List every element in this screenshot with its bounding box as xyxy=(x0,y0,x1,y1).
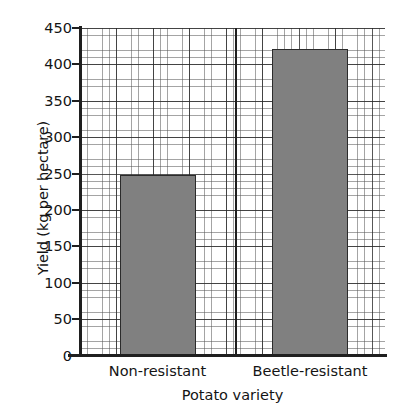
y-tick-label-150: 150 xyxy=(36,239,72,254)
bar-non-resistant[interactable] xyxy=(120,175,196,355)
category-divider xyxy=(235,28,237,355)
y-tick-label-200: 200 xyxy=(36,203,72,218)
y-tick-label-400: 400 xyxy=(36,57,72,72)
y-axis-line xyxy=(79,26,82,357)
bar-beetle-resistant[interactable] xyxy=(272,49,348,355)
x-axis-title: Potato variety xyxy=(80,387,385,403)
x-tick-label-beetle-resistant: Beetle-resistant xyxy=(235,363,385,379)
y-tick-label-0: 0 xyxy=(36,349,72,364)
y-tick-label-50: 50 xyxy=(36,312,72,327)
y-tick-label-350: 350 xyxy=(36,94,72,109)
x-tick-label-non-resistant: Non-resistant xyxy=(80,363,235,379)
y-tick-label-300: 300 xyxy=(36,130,72,145)
y-tick-label-450: 450 xyxy=(36,21,72,36)
bar-chart: Yield (kg per hectare) 450 400 350 300 2… xyxy=(0,0,403,420)
y-axis-tick-labels: 450 400 350 300 250 200 150 100 50 0 xyxy=(28,0,72,420)
x-axis-line xyxy=(68,354,387,357)
y-tick-label-250: 250 xyxy=(36,167,72,182)
y-tick-label-100: 100 xyxy=(36,276,72,291)
plot-area xyxy=(80,28,385,355)
